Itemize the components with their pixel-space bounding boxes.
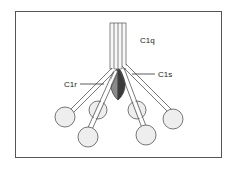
c1r-label: C1r <box>64 80 77 89</box>
c1-complex-diagram <box>0 0 235 169</box>
c1q-label: C1q <box>140 36 155 45</box>
c1q-head-1 <box>55 107 75 127</box>
c1s-label: C1s <box>158 70 172 79</box>
c1q-head-4 <box>163 109 183 129</box>
c1q-head-2 <box>78 127 98 147</box>
c1q-head-3 <box>136 125 156 145</box>
